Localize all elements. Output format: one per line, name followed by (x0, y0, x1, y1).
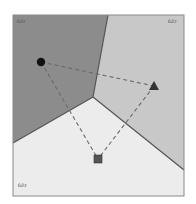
circle-point-icon (37, 58, 45, 66)
label-omega1: ω₁ (17, 18, 26, 25)
label-omega2: ω₂ (168, 18, 177, 25)
voronoi-diagram (0, 0, 196, 204)
square-point-icon (94, 155, 102, 163)
label-omega3: ω₃ (18, 182, 27, 189)
